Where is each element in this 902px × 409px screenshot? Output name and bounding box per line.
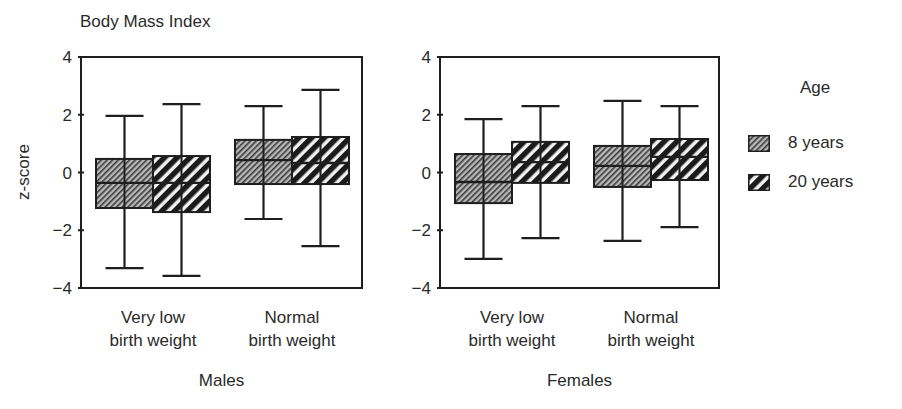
legend-item-8-years: 8 years bbox=[748, 133, 844, 153]
category-label: birth weight bbox=[469, 331, 556, 350]
y-tick-label: −2 bbox=[53, 221, 72, 240]
legend-item-20-years: 20 years bbox=[748, 172, 853, 192]
legend-swatch-fine-hatch-icon bbox=[748, 135, 770, 152]
category-label: birth weight bbox=[110, 331, 197, 350]
legend-label: 8 years bbox=[788, 133, 844, 153]
legend-label: 20 years bbox=[788, 172, 853, 192]
plot-area: 420−2−4Very lowbirth weightNormalbirth w… bbox=[0, 0, 902, 409]
legend-swatch-bold-stripe-icon bbox=[748, 174, 770, 191]
panel-males: 420−2−4Very lowbirth weightNormalbirth w… bbox=[53, 48, 362, 390]
panel-females: 420−2−4Very lowbirth weightNormalbirth w… bbox=[412, 48, 719, 390]
box-8-years-1 bbox=[594, 101, 651, 241]
y-tick-label: −4 bbox=[412, 279, 431, 298]
category-label: Normal bbox=[624, 308, 679, 327]
box-8-years-1 bbox=[235, 106, 292, 219]
y-tick-label: 0 bbox=[422, 164, 431, 183]
y-tick-label: 0 bbox=[63, 164, 72, 183]
y-tick-label: 4 bbox=[422, 48, 431, 67]
box-20-years-0 bbox=[153, 104, 210, 276]
category-label: birth weight bbox=[249, 331, 336, 350]
category-label: Very low bbox=[480, 308, 545, 327]
box-20-years-0 bbox=[512, 106, 569, 238]
panel-label: Females bbox=[547, 371, 612, 390]
category-label: Very low bbox=[121, 308, 186, 327]
chart: Body Mass Index z-score 420−2−4Very lowb… bbox=[0, 0, 902, 409]
box-20-years-1 bbox=[651, 106, 708, 227]
y-tick-label: −4 bbox=[53, 279, 72, 298]
category-label: Normal bbox=[265, 308, 320, 327]
category-label: birth weight bbox=[608, 331, 695, 350]
box-20-years-1 bbox=[292, 90, 349, 246]
legend-title: Age bbox=[800, 78, 830, 98]
box-8-years-0 bbox=[455, 119, 512, 259]
y-tick-label: 4 bbox=[63, 48, 72, 67]
y-tick-label: 2 bbox=[422, 106, 431, 125]
y-tick-label: −2 bbox=[412, 221, 431, 240]
y-tick-label: 2 bbox=[63, 106, 72, 125]
box-8-years-0 bbox=[96, 116, 153, 268]
panel-label: Males bbox=[199, 371, 244, 390]
